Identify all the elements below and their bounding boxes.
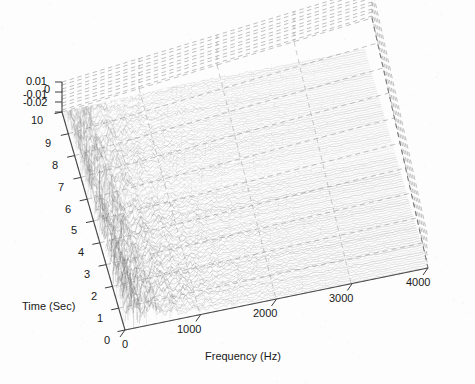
frequency-tick-label-2000: 2000 — [253, 307, 277, 319]
plot-canvas — [0, 0, 475, 384]
waterfall-traces — [62, 50, 428, 329]
time-tick-label-0: 0 — [104, 334, 110, 346]
waterfall-trace — [102, 188, 405, 241]
time-tick-label-8: 8 — [52, 159, 58, 171]
waterfall-figure: 0.01 0 -0.01 -0.02 10 9 8 7 6 5 4 3 2 1 … — [0, 0, 475, 384]
time-tick-label-5: 5 — [71, 224, 77, 236]
time-tick-label-9: 9 — [45, 137, 51, 149]
frequency-axis-title: Frequency (Hz) — [205, 350, 281, 362]
frequency-tick-label-3000: 3000 — [329, 292, 353, 304]
frequency-tick-label-1000: 1000 — [177, 323, 201, 335]
amplitude-axis-ticks — [55, 82, 62, 112]
waterfall-trace — [86, 133, 389, 183]
time-tick-label-2: 2 — [91, 290, 97, 302]
waterfall-trace — [63, 54, 366, 106]
frequency-tick-label-4000: 4000 — [406, 276, 430, 288]
time-tick-label-1: 1 — [97, 312, 103, 324]
time-tick-label-10: 10 — [31, 114, 43, 126]
time-axis-title: Time (Sec) — [22, 300, 75, 312]
grid-back-wall-verticals — [62, 0, 372, 112]
waterfall-trace — [94, 159, 397, 212]
grid-back-wall-frequency — [62, 0, 372, 110]
time-tick-label-7: 7 — [58, 181, 64, 193]
time-tick-label-4: 4 — [78, 246, 84, 258]
time-tick-label-3: 3 — [84, 268, 90, 280]
waterfall-trace — [62, 50, 365, 103]
amplitude-tick-label-3: -0.02 — [23, 96, 47, 108]
frequency-tick-label-0: 0 — [122, 338, 128, 350]
time-tick-label-6: 6 — [65, 203, 71, 215]
